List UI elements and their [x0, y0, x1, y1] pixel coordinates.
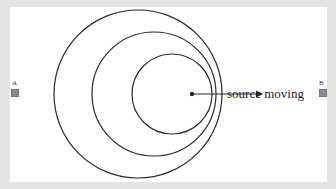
- observer-b-marker: [319, 89, 327, 97]
- marker-a-label: A: [12, 79, 17, 87]
- source-moving-label: source moving: [227, 86, 304, 102]
- observer-a-marker: [11, 89, 19, 97]
- source-dot: [190, 92, 194, 96]
- marker-b-label: B: [319, 79, 324, 87]
